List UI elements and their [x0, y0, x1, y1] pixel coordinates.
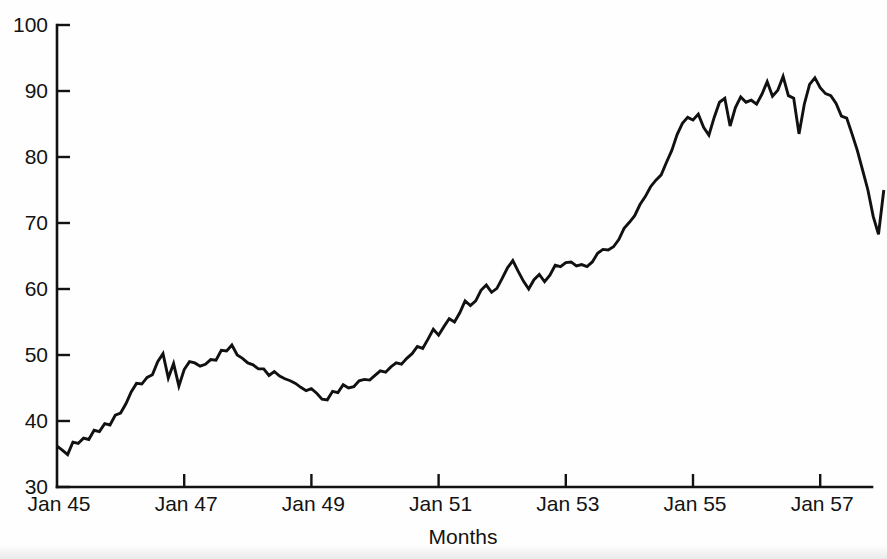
- y-tick-label: 50: [25, 343, 48, 366]
- x-tick-label: Jan 47: [155, 492, 218, 515]
- y-tick-label: 90: [25, 79, 48, 102]
- data-series-line: [57, 76, 884, 454]
- x-tick-label: Jan 49: [282, 492, 345, 515]
- y-tick-label: 40: [25, 409, 48, 432]
- x-tick-label: Jan 45: [27, 492, 90, 515]
- line-chart: 30405060708090100 Jan 45Jan 47Jan 49Jan …: [0, 0, 887, 559]
- chart-page: 30405060708090100 Jan 45Jan 47Jan 49Jan …: [0, 0, 887, 559]
- x-tick-label: Jan 51: [409, 492, 472, 515]
- x-axis-title: Months: [429, 525, 498, 548]
- x-axis-tick-labels: Jan 45Jan 47Jan 49Jan 51Jan 53Jan 55Jan …: [27, 492, 853, 515]
- y-tick-label: 100: [13, 13, 48, 36]
- x-axis-ticks: [184, 474, 820, 487]
- y-tick-label: 80: [25, 145, 48, 168]
- x-tick-label: Jan 57: [791, 492, 854, 515]
- y-tick-label: 70: [25, 211, 48, 234]
- y-axis-ticks: [57, 25, 70, 487]
- y-axis-tick-labels: 30405060708090100: [13, 13, 48, 498]
- x-tick-label: Jan 53: [536, 492, 599, 515]
- x-tick-label: Jan 55: [663, 492, 726, 515]
- y-tick-label: 60: [25, 277, 48, 300]
